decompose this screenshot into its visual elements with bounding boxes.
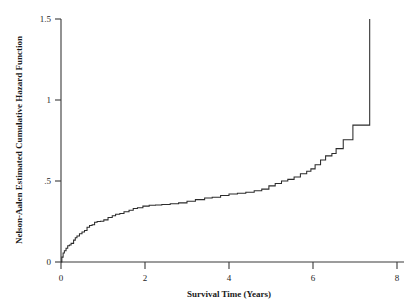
x-tick-label-0: 0 (59, 273, 64, 283)
y-tick-label-1-5: 1.5 (40, 14, 52, 24)
x-tick-label-8: 8 (395, 273, 400, 283)
x-tick-label-2: 2 (143, 273, 148, 283)
y-axis-ticks (55, 19, 61, 262)
nelson-aalen-chart: 0 .5 1 1.5 0 2 4 6 8 Survival Time (Year… (0, 0, 417, 305)
x-axis-title: Survival Time (Years) (187, 289, 271, 299)
cumulative-hazard-step-curve (61, 19, 370, 262)
x-axis-ticks (61, 262, 397, 269)
y-tick-label-0: 0 (47, 257, 52, 267)
x-tick-label-4: 4 (227, 273, 232, 283)
figure-container: 0 .5 1 1.5 0 2 4 6 8 Survival Time (Year… (0, 0, 417, 305)
y-tick-label-1: 1 (47, 95, 52, 105)
x-tick-label-6: 6 (311, 273, 316, 283)
y-tick-label-0-5: .5 (44, 176, 51, 186)
y-axis-title: Nelson-Aalen Estimated Cumulative Hazard… (14, 36, 24, 244)
